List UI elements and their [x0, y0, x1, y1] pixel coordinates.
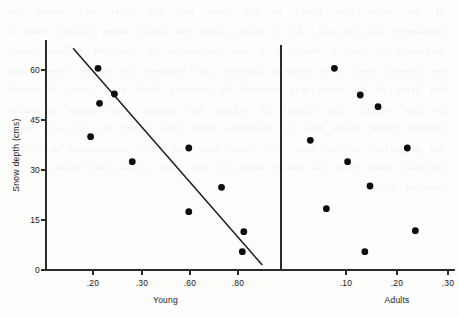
- x-tick-label: .30: [136, 278, 148, 288]
- y-tick-label: 30: [18, 165, 40, 175]
- data-point-marker: [87, 133, 94, 140]
- data-point-marker: [96, 100, 103, 107]
- data-point-marker: [357, 92, 364, 99]
- y-tick-label: 0: [18, 265, 40, 275]
- regression-fit-line: [73, 48, 262, 265]
- x-tick-label: .20: [87, 278, 99, 288]
- y-tick-label: 60: [18, 65, 40, 75]
- data-point-marker: [240, 228, 247, 235]
- snow-depth-scatter-figure: of the snow was found in the open and th…: [0, 0, 459, 317]
- data-point-marker: [323, 205, 330, 212]
- data-point-marker: [361, 248, 368, 255]
- data-point-marker: [129, 158, 136, 165]
- young-series-group: [73, 48, 262, 265]
- data-point-marker: [344, 158, 351, 165]
- x-axis-title: Adults: [385, 295, 410, 305]
- x-tick-label: .80: [232, 278, 244, 288]
- x-tick-label: .60: [184, 278, 196, 288]
- axes-group: [41, 40, 455, 275]
- data-point-marker: [331, 65, 338, 72]
- y-tick-label: 15: [18, 215, 40, 225]
- data-point-marker: [185, 208, 192, 215]
- data-point-marker: [185, 145, 192, 152]
- data-point-marker: [111, 91, 118, 98]
- data-point-marker: [95, 65, 102, 72]
- x-axis-title: Young: [153, 295, 178, 305]
- x-tick-label: .10: [340, 278, 352, 288]
- data-point-marker: [412, 227, 419, 234]
- data-point-marker: [375, 103, 382, 110]
- x-tick-label: .20: [391, 278, 403, 288]
- data-point-marker: [218, 184, 225, 191]
- x-tick-label: .30: [442, 278, 454, 288]
- y-tick-label: 45: [18, 115, 40, 125]
- data-point-marker: [239, 248, 246, 255]
- data-point-marker: [404, 145, 411, 152]
- adults-series-group: [307, 65, 419, 255]
- data-point-marker: [307, 137, 314, 144]
- data-point-marker: [367, 183, 374, 190]
- plot-canvas: [0, 0, 459, 317]
- y-axis-title: Snow depth (cms): [11, 118, 21, 191]
